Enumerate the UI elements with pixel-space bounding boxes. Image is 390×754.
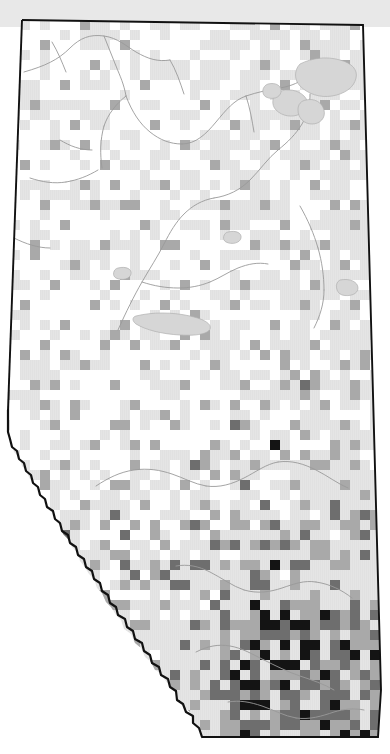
density-cell [230,290,240,300]
density-cell [130,440,140,450]
density-cell [180,290,190,300]
density-cell [150,500,160,510]
density-cell [110,480,120,490]
density-cell [80,450,90,460]
density-cell [230,110,240,120]
density-cell [150,520,160,530]
density-cell [180,440,190,450]
density-cell [150,200,160,210]
density-cell [300,160,310,170]
density-cell [130,380,140,390]
density-cell [200,290,210,300]
density-cell [250,630,260,640]
density-cell [260,520,270,530]
density-cell [290,50,300,60]
density-cell [260,260,270,270]
density-cell [60,330,70,340]
density-cell [330,320,340,330]
density-cell [330,370,340,380]
density-cell [60,350,70,360]
density-cell [20,140,30,150]
density-cell [280,350,290,360]
density-cell [170,520,180,530]
alberta-density-map[interactable] [0,0,390,754]
density-cell [160,50,170,60]
density-cell [200,100,210,110]
density-cell [240,30,250,40]
density-cell [140,190,150,200]
density-cell [50,270,60,280]
density-cell [310,140,320,150]
density-cell [150,430,160,440]
density-cell [270,40,280,50]
density-cell [320,230,330,240]
density-cell [300,630,310,640]
density-cell [190,700,200,710]
density-cell [100,530,110,540]
density-cell [310,710,320,720]
density-cell [210,370,220,380]
density-cell [70,70,80,80]
density-cell [160,170,170,180]
density-cell [350,620,360,630]
density-cell [70,340,80,350]
density-cell [350,520,360,530]
density-cell [260,440,270,450]
density-cell [310,330,320,340]
density-cell [260,490,270,500]
density-cell [20,290,30,300]
density-cell [250,350,260,360]
density-cell [340,410,350,420]
density-cell [140,250,150,260]
density-cell [50,430,60,440]
density-cell [160,260,170,270]
density-cell [290,260,300,270]
density-cell [150,80,160,90]
density-cell [140,460,150,470]
density-cell [80,340,90,350]
density-cell [170,150,180,160]
density-cell [90,430,100,440]
density-cell [120,60,130,70]
density-cell [40,330,50,340]
density-cell [140,430,150,440]
density-cell [240,230,250,240]
density-cell [250,580,260,590]
density-cell [310,280,320,290]
density-cell [230,130,240,140]
density-cell [220,630,230,640]
density-cell [280,470,290,480]
density-cell [30,250,40,260]
density-cell [300,400,310,410]
density-cell [310,610,320,620]
density-cell [30,140,40,150]
density-cell [120,80,130,90]
density-cell [70,420,80,430]
density-cell [210,510,220,520]
density-cell [270,360,280,370]
density-cell [190,380,200,390]
density-cell [180,150,190,160]
density-cell [350,460,360,470]
density-cell [290,630,300,640]
density-cell [80,530,90,540]
density-cell [110,430,120,440]
density-cell [80,280,90,290]
density-cell [230,470,240,480]
density-cell [350,600,360,610]
density-cell [270,250,280,260]
density-cell [310,550,320,560]
density-cell [250,50,260,60]
density-cell [370,650,380,660]
density-cell [200,530,210,540]
density-cell [50,380,60,390]
density-cell [260,500,270,510]
density-cell [170,430,180,440]
density-cell [360,280,370,290]
density-cell [280,680,290,690]
density-cell [180,590,190,600]
density-cell [160,590,170,600]
density-cell [30,280,40,290]
map-viewport[interactable] [0,0,390,754]
density-cell [120,390,130,400]
